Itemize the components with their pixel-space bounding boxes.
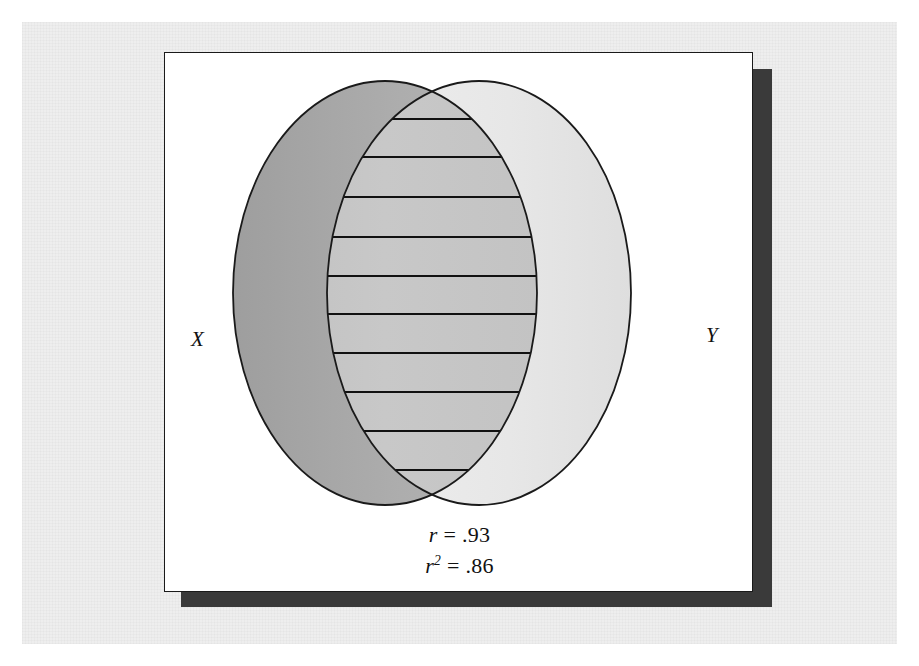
set-label-y: Y <box>706 325 718 346</box>
r-value: = .93 <box>443 522 490 547</box>
figure-card: X Y r = .93 r2 = .86 <box>164 52 753 592</box>
venn-diagram <box>165 53 754 593</box>
r-squared-statistic: r2 = .86 <box>165 553 754 579</box>
r-squared-symbol: r <box>425 553 434 578</box>
figure-page: X Y r = .93 r2 = .86 <box>0 0 919 666</box>
r-squared-exponent: 2 <box>434 553 441 568</box>
set-label-x: X <box>191 329 204 350</box>
correlation-statistic: r = .93 <box>165 522 754 548</box>
r-symbol: r <box>429 522 438 547</box>
r-squared-value: = .86 <box>447 553 494 578</box>
